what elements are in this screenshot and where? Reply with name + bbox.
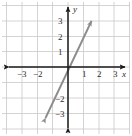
graph-canvas <box>0 0 132 136</box>
grid-lines <box>2 2 130 134</box>
y-tick-label-neg3: −3 <box>55 110 65 119</box>
axis-lines <box>9 7 125 128</box>
x-tick-label-neg2: −2 <box>33 70 43 79</box>
x-tick-label-1: 1 <box>82 70 87 79</box>
y-tick-label-3: 3 <box>58 17 63 26</box>
y-tick-label-2: 2 <box>58 33 63 42</box>
y-tick-label-1: 1 <box>58 48 63 57</box>
coordinate-plane-graph: −3 −2 1 2 3 3 2 1 −2 −3 x y <box>0 0 132 136</box>
x-tick-label-neg3: −3 <box>17 70 27 79</box>
y-tick-label-neg2: −2 <box>55 95 65 104</box>
x-axis-label: x <box>122 70 126 79</box>
y-axis-label: y <box>73 5 77 14</box>
x-tick-label-2: 2 <box>97 70 102 79</box>
x-tick-label-3: 3 <box>113 70 118 79</box>
